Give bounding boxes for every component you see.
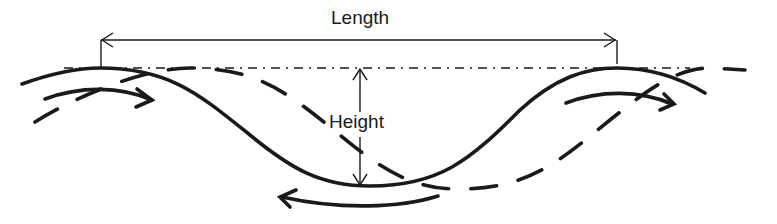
diagram-canvas	[0, 0, 777, 224]
height-label: Height	[328, 112, 385, 131]
length-label: Length	[331, 8, 389, 27]
shifted-wave-profile	[35, 68, 745, 189]
length-dimension	[101, 33, 617, 69]
wave-diagram: Length Height	[0, 0, 777, 224]
flow-arrow-right-crest	[566, 93, 674, 110]
flow-arrow-trough	[280, 190, 438, 207]
